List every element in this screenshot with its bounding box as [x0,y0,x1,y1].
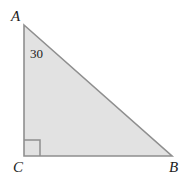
angle-measure-label-a: 30 [30,47,43,60]
geometry-figure: A B C 30 [0,0,190,187]
vertex-label-c: C [13,160,23,175]
triangle-diagram-svg [0,0,190,187]
vertex-label-b: B [169,160,178,175]
triangle-shape [24,25,172,156]
vertex-label-a: A [11,9,20,24]
